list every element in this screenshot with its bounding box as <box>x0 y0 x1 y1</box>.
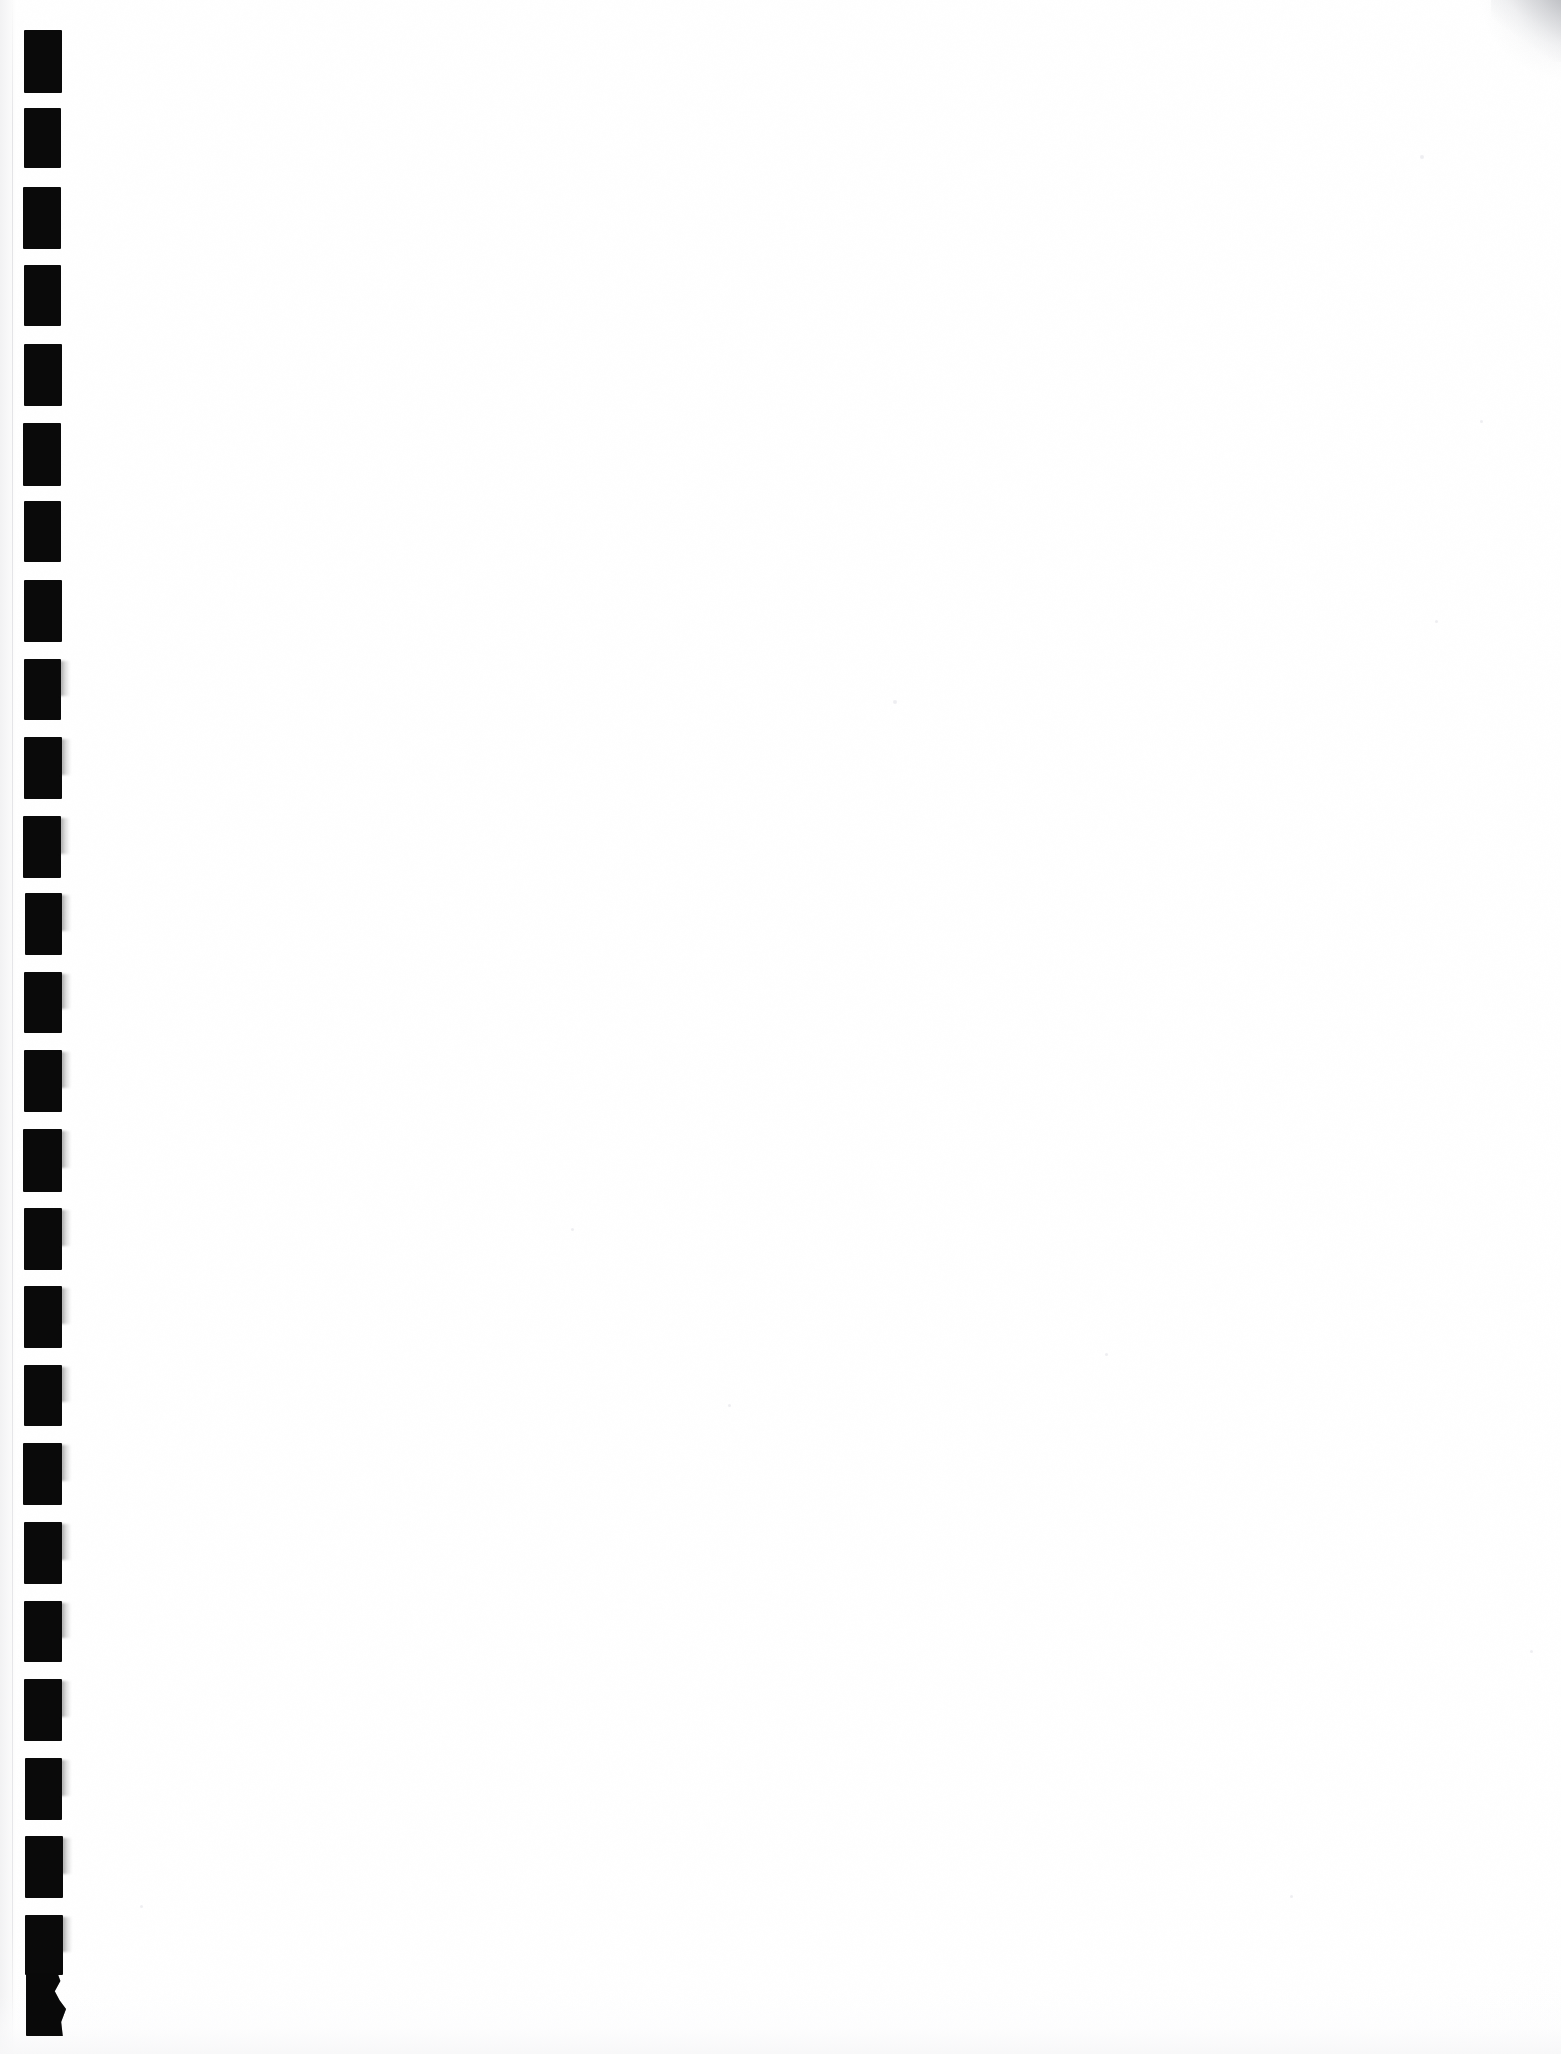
binding-punch-mark <box>25 1915 63 1975</box>
binding-punch-mark <box>26 1972 66 2036</box>
binding-punch-mark <box>24 108 61 168</box>
binding-punch-mark <box>24 1522 62 1584</box>
binding-punch-mark <box>23 816 61 878</box>
binding-punch-strip <box>0 0 110 2054</box>
binding-punch-mark <box>24 1050 62 1112</box>
binding-punch-mark <box>24 1679 62 1741</box>
binding-punch-mark <box>25 1758 62 1820</box>
binding-punch-mark <box>24 265 61 326</box>
binding-punch-mark <box>25 893 62 955</box>
binding-punch-mark <box>24 659 61 720</box>
top-right-corner-curl-edge <box>1491 0 1561 62</box>
binding-punch-mark <box>23 423 61 486</box>
binding-punch-mark <box>23 1443 62 1505</box>
binding-punch-mark <box>25 1836 63 1898</box>
page-body-blank-area <box>110 0 1561 2054</box>
binding-punch-mark <box>24 501 61 562</box>
binding-punch-mark <box>24 344 62 406</box>
sheet-bottom-edge <box>0 1994 1561 2054</box>
binding-punch-mark <box>24 580 62 642</box>
binding-punch-mark <box>24 1601 62 1662</box>
binding-punch-mark <box>24 1365 62 1426</box>
binding-punch-mark <box>23 187 61 249</box>
binding-punch-mark <box>24 1286 62 1348</box>
scanned-page <box>0 0 1561 2054</box>
binding-punch-mark <box>24 30 62 93</box>
binding-punch-mark <box>24 972 62 1033</box>
binding-punch-mark <box>24 1208 62 1270</box>
binding-punch-mark <box>24 737 62 799</box>
binding-punch-mark <box>23 1129 62 1192</box>
